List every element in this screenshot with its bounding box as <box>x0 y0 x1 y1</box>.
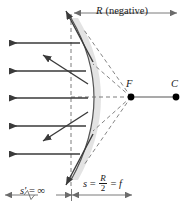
image-distance-label: s' = ∞ <box>20 186 45 197</box>
radius-label: R(negative) <box>96 6 148 17</box>
radius-symbol: R <box>96 5 102 16</box>
fraction-denominator: 2 <box>99 183 107 193</box>
object-distance-equals-2: = <box>110 178 116 189</box>
radius-over-two-fraction: R 2 <box>99 174 107 193</box>
reflected-ray-2 <box>43 55 88 84</box>
radius-qualifier: (negative) <box>105 5 148 16</box>
object-distance-rhs: f <box>119 178 122 189</box>
optics-figure-convex-mirror: R(negative) F C s = R 2 = f s' = ∞ <box>0 0 190 208</box>
center-of-curvature-label: C <box>171 79 178 90</box>
object-distance-label: s = R 2 = f <box>83 174 122 193</box>
focal-point-dot <box>128 94 135 101</box>
fraction-numerator: R <box>99 174 107 183</box>
image-distance-equals: = <box>29 185 35 196</box>
image-distance-value: ∞ <box>38 185 46 196</box>
focal-point-label: F <box>126 79 132 90</box>
image-distance-symbol: s' <box>20 185 26 196</box>
object-distance-lhs: s <box>83 178 87 189</box>
object-distance-equals-1: = <box>90 178 96 189</box>
center-of-curvature-dot <box>173 94 180 101</box>
